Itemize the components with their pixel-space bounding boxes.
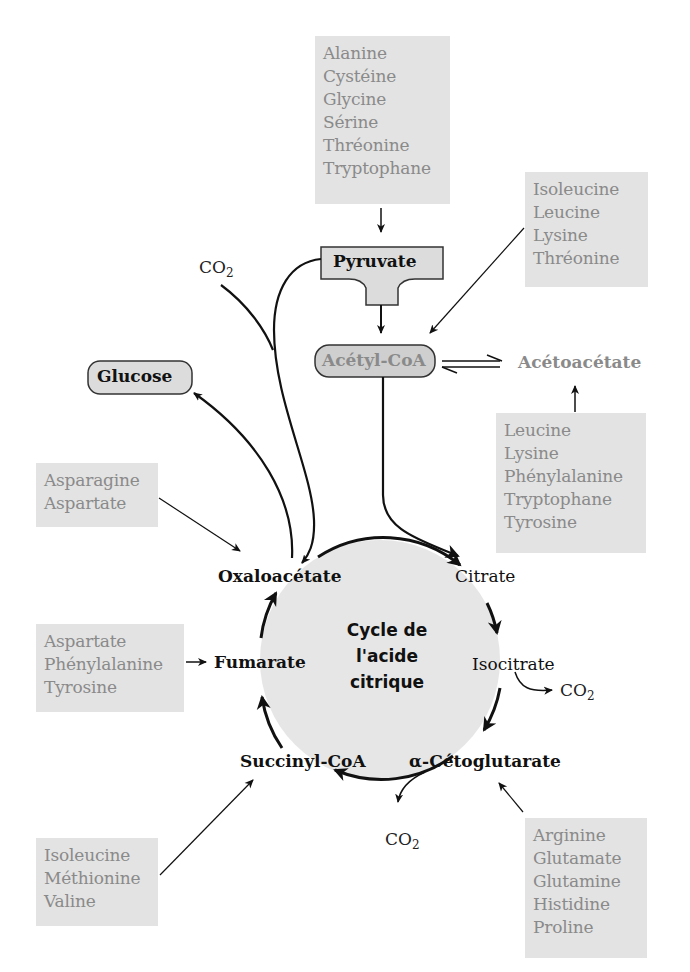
amino-acid-label: Tyrosine	[44, 676, 176, 699]
amino-acid-label: Isoleucine	[44, 844, 150, 867]
alpha-ketoglutarate-label: α-Cétoglutarate	[409, 751, 561, 771]
amino-acid-label: Tryptophane	[323, 157, 442, 180]
amino-acid-label: Tyrosine	[504, 511, 638, 534]
acetoacetate-label: Acétoacétate	[518, 352, 641, 372]
amino-acid-label: Thréonine	[323, 134, 442, 157]
amino-acid-label: Thréonine	[533, 247, 640, 270]
amino-acids-to-succinyl-coa-box: Isoleucine Méthionine Valine	[36, 838, 158, 926]
co2-text: CO	[385, 829, 412, 849]
amino-acids-to-alpha-ketoglutarate-box: Arginine Glutamate Glutamine Histidine P…	[525, 818, 647, 958]
amino-acids-to-oxaloacetate-box: Asparagine Aspartate	[36, 463, 158, 527]
amino-acid-label: Valine	[44, 890, 150, 913]
pyruvate-label: Pyruvate	[333, 251, 417, 271]
co2-text: CO	[199, 257, 226, 277]
amino-acid-label: Cystéine	[323, 65, 442, 88]
amino-acids-to-fumarate-box: Aspartate Phénylalanine Tyrosine	[36, 624, 184, 712]
citric-acid-cycle-diagram: Alanine Cystéine Glycine Sérine Thréonin…	[0, 0, 690, 972]
amino-acid-label: Isoleucine	[533, 178, 640, 201]
fumarate-label: Fumarate	[214, 652, 306, 672]
amino-acid-label: Asparagine	[44, 469, 150, 492]
acetyl-coa-label: Acétyl-CoA	[322, 350, 426, 370]
amino-acid-label: Glutamate	[533, 847, 639, 870]
amino-acid-label: Aspartate	[44, 492, 150, 515]
amino-acid-label: Leucine	[533, 201, 640, 224]
amino-acid-label: Histidine	[533, 893, 639, 916]
isocitrate-label: Isocitrate	[472, 654, 555, 674]
cycle-title-line: citrique	[332, 669, 442, 695]
amino-acid-label: Alanine	[323, 42, 442, 65]
amino-acid-label: Leucine	[504, 419, 638, 442]
amino-acid-label: Phénylalanine	[504, 465, 638, 488]
amino-acids-to-pyruvate-box: Alanine Cystéine Glycine Sérine Thréonin…	[315, 36, 450, 204]
amino-acid-label: Proline	[533, 916, 639, 939]
co2-text: CO	[560, 680, 587, 700]
amino-acid-label: Sérine	[323, 111, 442, 134]
oxaloacetate-label: Oxaloacétate	[218, 566, 341, 586]
co2-label-isocitrate: CO2	[560, 680, 595, 703]
glucose-label: Glucose	[97, 366, 172, 386]
amino-acid-label: Glutamine	[533, 870, 639, 893]
amino-acid-label: Lysine	[533, 224, 640, 247]
co2-subscript: 2	[587, 689, 595, 703]
amino-acid-label: Glycine	[323, 88, 442, 111]
co2-subscript: 2	[412, 838, 420, 852]
cycle-title-line: l'acide	[332, 643, 442, 669]
amino-acid-label: Arginine	[533, 824, 639, 847]
co2-label-alpha-ketoglutarate: CO2	[385, 829, 420, 852]
co2-label-pyruvate: CO2	[199, 257, 234, 280]
amino-acids-to-acetyl-coa-box: Isoleucine Leucine Lysine Thréonine	[525, 172, 648, 287]
citrate-label: Citrate	[455, 566, 515, 586]
succinyl-coa-label: Succinyl-CoA	[240, 751, 366, 771]
amino-acid-label: Aspartate	[44, 630, 176, 653]
amino-acids-to-acetoacetate-box: Leucine Lysine Phénylalanine Tryptophane…	[496, 413, 646, 553]
cycle-title-line: Cycle de	[332, 617, 442, 643]
amino-acid-label: Phénylalanine	[44, 653, 176, 676]
co2-subscript: 2	[226, 266, 234, 280]
amino-acid-label: Méthionine	[44, 867, 150, 890]
amino-acid-label: Tryptophane	[504, 488, 638, 511]
cycle-title: Cycle de l'acide citrique	[332, 617, 442, 695]
amino-acid-label: Lysine	[504, 442, 638, 465]
